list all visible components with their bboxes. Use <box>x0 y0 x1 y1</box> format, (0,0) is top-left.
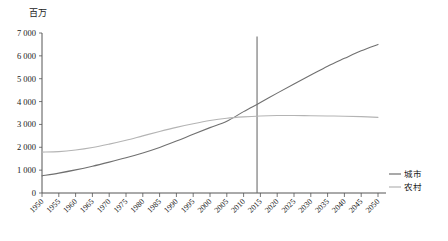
y-axis: 01 0002 0003 0004 0005 0006 0007 000 <box>17 28 42 198</box>
y-tick-label: 7 000 <box>17 28 36 38</box>
x-tick-label: 2000 <box>196 197 214 215</box>
y-tick-label: 1 000 <box>17 165 36 175</box>
y-tick-label: 3 000 <box>17 119 36 129</box>
x-tick-label: 2020 <box>263 197 281 215</box>
x-tick-label: 2015 <box>246 197 264 215</box>
x-tick-label: 2030 <box>297 197 315 215</box>
legend-label-rural[interactable]: 农村 <box>404 182 422 192</box>
x-tick-label: 1980 <box>129 197 147 215</box>
x-tick-label: 2025 <box>280 197 298 215</box>
population-line-chart: 百万 01 0002 0003 0004 0005 0006 0007 000 … <box>0 0 448 241</box>
y-tick-label: 0 <box>32 188 36 198</box>
x-tick-label: 1970 <box>95 197 113 215</box>
unit-title-group: 百万 <box>29 8 47 18</box>
y-tick-label: 6 000 <box>17 51 36 61</box>
x-axis: 1950195519601965197019751980198519901995… <box>28 193 386 215</box>
x-tick-label: 2050 <box>364 197 382 215</box>
y-axis-unit-title: 百万 <box>29 8 47 18</box>
x-tick-label: 1950 <box>28 197 46 215</box>
x-tick-label: 1975 <box>112 197 130 215</box>
x-tick-label: 1985 <box>145 197 163 215</box>
x-tick-label: 2035 <box>313 197 331 215</box>
legend-label-urban[interactable]: 城市 <box>404 169 422 179</box>
series-lines <box>42 44 378 175</box>
y-tick-label: 5 000 <box>17 74 36 84</box>
x-tick-label: 2045 <box>347 197 365 215</box>
chart-legend: 城市农村 <box>389 169 422 192</box>
x-tick-label: 1995 <box>179 197 197 215</box>
x-tick-label: 1990 <box>162 197 180 215</box>
y-tick-label: 2 000 <box>17 142 36 152</box>
x-tick-label: 1960 <box>61 197 79 215</box>
x-tick-label: 2040 <box>330 197 348 215</box>
x-tick-label: 2010 <box>229 197 247 215</box>
series-line-rural <box>42 115 378 152</box>
series-line-urban <box>42 44 378 175</box>
y-tick-label: 4 000 <box>17 97 36 107</box>
chart-canvas: 百万 01 0002 0003 0004 0005 0006 0007 000 … <box>0 0 448 241</box>
x-tick-label: 1955 <box>45 197 63 215</box>
x-tick-label: 1965 <box>78 197 96 215</box>
x-tick-label: 2005 <box>213 197 231 215</box>
